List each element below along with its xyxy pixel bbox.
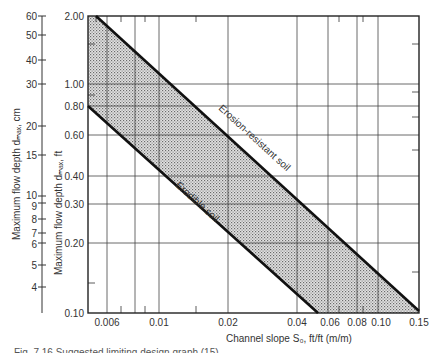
- svg-text:4: 4: [31, 282, 37, 293]
- svg-text:0.01: 0.01: [149, 317, 169, 328]
- svg-text:30: 30: [26, 79, 38, 90]
- y-axis-ft: 2.00 1.00 0.80 0.60 0.40 0.30 0.20 0.10: [65, 11, 85, 319]
- svg-text:2.00: 2.00: [65, 11, 85, 22]
- svg-text:15: 15: [26, 150, 38, 161]
- erosion-resistant-soil-line: [96, 16, 419, 311]
- x-axis: 0.006 0.01 0.02 0.04 0.06 0.08 0.10 0.15: [94, 317, 429, 328]
- svg-text:0.02: 0.02: [218, 317, 238, 328]
- svg-text:9: 9: [31, 201, 37, 212]
- svg-text:0.06: 0.06: [320, 317, 340, 328]
- x-axis-label: Channel slope S₀, ft/ft (m/m): [226, 333, 352, 344]
- stable-region: [88, 16, 419, 313]
- svg-text:20: 20: [26, 121, 38, 132]
- design-chart: Erosion-resistant soil Erodible soil 2.0…: [0, 0, 440, 353]
- svg-text:1.00: 1.00: [65, 79, 85, 90]
- svg-text:60: 60: [26, 11, 38, 22]
- svg-text:0.04: 0.04: [287, 317, 307, 328]
- svg-text:40: 40: [26, 55, 38, 66]
- svg-text:5: 5: [31, 260, 37, 271]
- figure-caption: Fig. 7.16 Suggested limiting design grap…: [14, 346, 221, 353]
- svg-text:0.006: 0.006: [94, 317, 119, 328]
- svg-text:0.60: 0.60: [65, 130, 85, 141]
- svg-text:0.10: 0.10: [371, 317, 391, 328]
- svg-text:0.10: 0.10: [65, 308, 85, 319]
- svg-text:0.20: 0.20: [65, 238, 85, 249]
- svg-text:0.30: 0.30: [65, 199, 85, 210]
- svg-text:0.15: 0.15: [409, 317, 429, 328]
- y-axis-label-cm: Maximum flow depth dₘₐₓ, cm: [11, 108, 22, 240]
- svg-text:50: 50: [26, 30, 38, 41]
- y-axis-label-ft: Maximum flow depth dₘₐₓ, ft: [53, 151, 64, 275]
- svg-text:8: 8: [31, 214, 37, 225]
- svg-text:10: 10: [26, 190, 38, 201]
- y-axis-cm: 60 50 40 30 20 15 10 9 8 7 6 5 4: [26, 11, 46, 313]
- svg-text:0.80: 0.80: [65, 101, 85, 112]
- svg-text:0.08: 0.08: [347, 317, 367, 328]
- svg-text:0.40: 0.40: [65, 171, 85, 182]
- svg-text:7: 7: [31, 228, 37, 239]
- svg-text:6: 6: [31, 239, 37, 250]
